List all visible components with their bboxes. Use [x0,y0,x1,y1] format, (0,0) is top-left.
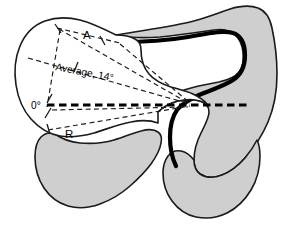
figure-container: Patellofemoral joint axial section with … [0,0,290,226]
femur-lower-left-condyle [35,130,161,208]
label-A: A [83,29,91,41]
anatomical-diagram-svg: Patellofemoral joint axial section with … [0,0,290,226]
label-zero-degree: 0° [31,100,41,111]
label-R: R [65,128,73,140]
